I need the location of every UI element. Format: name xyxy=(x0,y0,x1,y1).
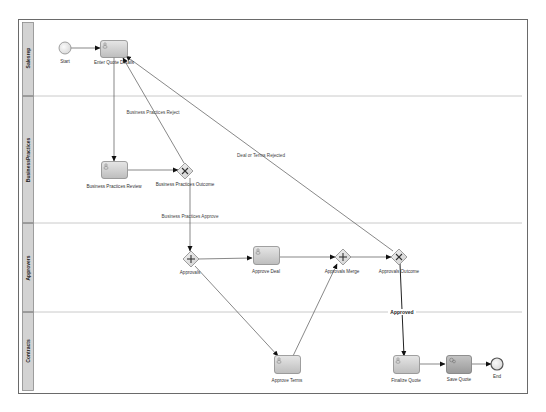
node-label: Approve Deal xyxy=(252,269,280,274)
node-label: Finalize Quote xyxy=(391,378,421,383)
node-label: Business Practices Review xyxy=(86,184,142,189)
node-label: Enter Quote Details xyxy=(94,60,135,65)
process-diagram: Salesrep BusinessPractices Approvers Con… xyxy=(0,0,546,412)
lane-businesspractices[interactable]: BusinessPractices xyxy=(25,138,31,183)
start-event-icon xyxy=(59,42,71,54)
lane-salesrep[interactable]: Salesrep xyxy=(25,48,31,69)
lane-label-salesrep: Salesrep xyxy=(25,48,31,69)
lane-contracts[interactable]: Contracts xyxy=(25,339,31,363)
edge-label-bp-approve: Business Practices Approve xyxy=(162,214,219,219)
lane-label-approvers: Approvers xyxy=(25,255,31,280)
node-label: Save Quote xyxy=(447,377,472,382)
node-approve-deal[interactable]: Approve Deal xyxy=(252,247,280,275)
node-finalize-quote[interactable]: Finalize Quote xyxy=(391,356,421,384)
node-label: Start xyxy=(60,59,70,64)
end-event-icon xyxy=(491,358,503,370)
node-save-quote[interactable]: Save Quote xyxy=(447,356,472,383)
edge-label-bp-reject: Business Practices Reject xyxy=(126,110,180,115)
lane-label-businesspractices: BusinessPractices xyxy=(25,138,31,183)
lane-header-strip xyxy=(23,23,34,391)
pool-frame xyxy=(19,20,528,394)
node-label: Approve Terms xyxy=(272,378,304,383)
node-label: Approvals xyxy=(180,270,201,275)
node-label: Approvals Outcome xyxy=(379,269,420,274)
lane-approvers[interactable]: Approvers xyxy=(25,255,31,280)
edge-label-deal-or-terms-rejected: Deal or Terms Rejected xyxy=(237,153,285,158)
edge-label-approved: Approved xyxy=(390,309,413,315)
node-label: Approvals Merge xyxy=(325,269,360,274)
node-label: End xyxy=(493,374,502,379)
node-label: Business Practices Outcome xyxy=(156,182,215,187)
node-approve-terms[interactable]: Approve Terms xyxy=(272,356,304,384)
lane-label-contracts: Contracts xyxy=(25,339,31,363)
